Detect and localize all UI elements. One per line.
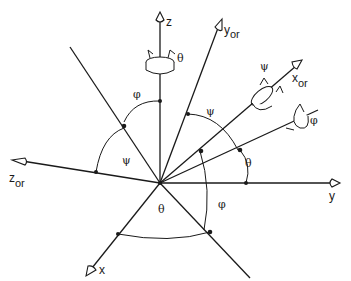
psi-upper-label: ψ <box>206 105 215 118</box>
euler-angle-diagram: z y x yor xor zor θ ψ φ φ ψ ψ θ θ φ <box>0 0 351 281</box>
z-or-arrowhead-icon <box>12 158 27 165</box>
node-line-rotation-icon <box>286 104 308 130</box>
x-label: x <box>99 263 105 277</box>
theta-right-label: θ <box>245 157 252 170</box>
x-arrowhead-icon <box>86 266 96 276</box>
y-or-arrowhead-icon <box>215 19 222 31</box>
y-or-label: yor <box>224 23 240 40</box>
rotation-icons <box>146 50 308 130</box>
x-or-rotation-icon <box>248 78 283 110</box>
arc-points <box>94 99 248 236</box>
psi-x-or-rotation-label: ψ <box>260 60 269 73</box>
x-or-label: xor <box>292 71 308 89</box>
psi-left-label: ψ <box>122 154 131 167</box>
arrowheads <box>12 12 340 276</box>
phi-bottom-right-label: φ <box>218 198 226 211</box>
z-or-axis <box>22 161 160 183</box>
phi-node-rotation-label: φ <box>310 114 318 127</box>
arc-phi-right <box>200 151 207 230</box>
theta-bottom-label: θ <box>158 203 165 216</box>
y-arrowhead-icon <box>330 179 340 187</box>
z-label: z <box>166 15 172 29</box>
axes <box>22 20 330 278</box>
x-or-axis <box>160 66 296 183</box>
arc-psi-upper <box>188 114 238 150</box>
arc-theta-bottom <box>118 232 210 239</box>
x-axis <box>92 183 160 268</box>
arc-phi-top <box>124 101 160 122</box>
z-arrowhead-icon <box>156 12 164 22</box>
phi-top-left-label: φ <box>133 88 141 101</box>
theta-z-rotation-label: θ <box>177 52 184 65</box>
z-or-label: zor <box>9 171 25 189</box>
angle-labels: θ ψ φ φ ψ ψ θ θ φ <box>122 52 318 216</box>
arc-psi-left <box>96 128 124 172</box>
diagonal-line-lower <box>160 183 250 278</box>
y-label: y <box>329 189 335 203</box>
